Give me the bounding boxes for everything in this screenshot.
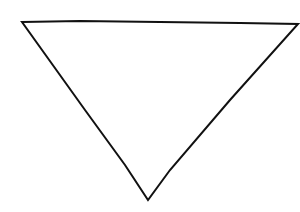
inverted-triangle-shape xyxy=(22,21,298,200)
triangle-diagram xyxy=(0,0,300,212)
diagram-canvas xyxy=(0,0,300,212)
